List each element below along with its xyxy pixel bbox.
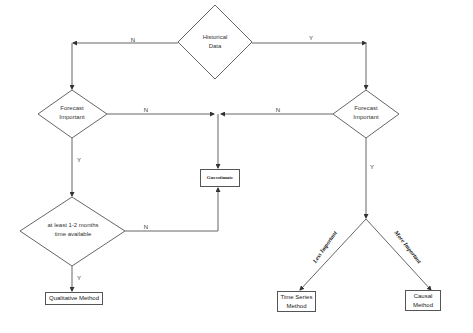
qualitative-method-label: Qualitative Method (49, 295, 99, 301)
edge-label-time-n: N (141, 223, 151, 231)
edge-label-left-forecast-y: Y (75, 156, 83, 164)
qualitative-method-box: Qualitative Method (45, 292, 103, 305)
time-series-method-box: Time Series Method (277, 291, 316, 312)
guesstimate-box: Guesstimate (200, 169, 240, 187)
edge-label-left-forecast-n: N (141, 106, 151, 114)
time-series-line2: Method (278, 302, 315, 311)
edge-label-right-forecast-n: N (273, 106, 283, 114)
edge-label-hist-left: N (128, 36, 138, 44)
time-available-label: at least 1-2 months time available (36, 221, 110, 239)
forecast-right-line2: Important (341, 113, 391, 122)
historical-data-line2: Data (190, 42, 240, 51)
time-available-line1: at least 1-2 months (36, 221, 110, 230)
historical-data-line1: Historical (190, 33, 240, 42)
forecast-left-label: Forecast Important (47, 104, 97, 122)
forecast-right-label: Forecast Important (341, 104, 391, 122)
causal-line2: Method (406, 301, 440, 310)
edge-label-time-y: Y (75, 274, 83, 282)
guesstimate-label: Guesstimate (207, 175, 233, 180)
forecast-left-line2: Important (47, 113, 97, 122)
edge-label-hist-right: Y (306, 34, 316, 42)
forecast-left-line1: Forecast (47, 104, 97, 113)
time-series-line1: Time Series (278, 293, 315, 302)
causal-method-box: Causal Method (405, 290, 441, 311)
time-available-line2: time available (36, 230, 110, 239)
historical-data-label: Historical Data (190, 33, 240, 51)
forecast-right-line1: Forecast (341, 104, 391, 113)
causal-line1: Causal (406, 292, 440, 301)
edge-label-right-forecast-y: Y (368, 163, 376, 171)
